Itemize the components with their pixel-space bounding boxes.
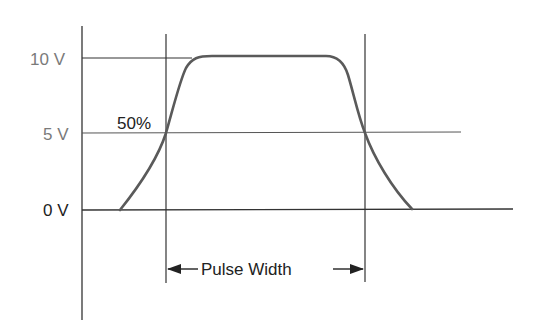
pulse-width-arrow-right bbox=[333, 264, 364, 274]
pulse-width-diagram: 10 V 5 V 0 V 50% Pulse Width bbox=[0, 0, 537, 333]
y-label-5v: 5 V bbox=[43, 125, 69, 144]
baseline-0v bbox=[82, 209, 513, 210]
pulse-width-label: Pulse Width bbox=[201, 260, 292, 279]
y-label-0v: 0 V bbox=[43, 201, 69, 220]
y-label-10v: 10 V bbox=[30, 50, 66, 69]
pulse-width-arrow-left bbox=[167, 264, 198, 274]
threshold-label-50pct: 50% bbox=[117, 114, 151, 133]
